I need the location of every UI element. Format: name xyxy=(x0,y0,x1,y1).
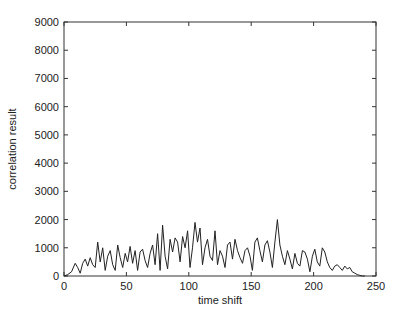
svg-text:8000: 8000 xyxy=(35,44,59,56)
svg-text:3000: 3000 xyxy=(35,185,59,197)
svg-text:50: 50 xyxy=(120,280,132,292)
x-axis-label: time shift xyxy=(198,294,242,306)
y-axis-ticks: 0100020003000400050006000700080009000 xyxy=(35,16,376,282)
svg-text:4000: 4000 xyxy=(35,157,59,169)
svg-text:9000: 9000 xyxy=(35,16,59,28)
svg-text:7000: 7000 xyxy=(35,72,59,84)
chart: 050100150200250 010002000300040005000600… xyxy=(0,0,394,322)
axes-frame xyxy=(64,22,376,276)
svg-text:5000: 5000 xyxy=(35,129,59,141)
svg-text:100: 100 xyxy=(180,280,198,292)
svg-text:6000: 6000 xyxy=(35,101,59,113)
svg-text:0: 0 xyxy=(53,270,59,282)
y-axis-label: correlation result xyxy=(6,108,18,189)
svg-text:1000: 1000 xyxy=(35,242,59,254)
svg-text:0: 0 xyxy=(61,280,67,292)
svg-text:250: 250 xyxy=(367,280,385,292)
correlation-line xyxy=(64,220,365,276)
svg-text:200: 200 xyxy=(304,280,322,292)
svg-text:2000: 2000 xyxy=(35,214,59,226)
svg-text:150: 150 xyxy=(242,280,260,292)
